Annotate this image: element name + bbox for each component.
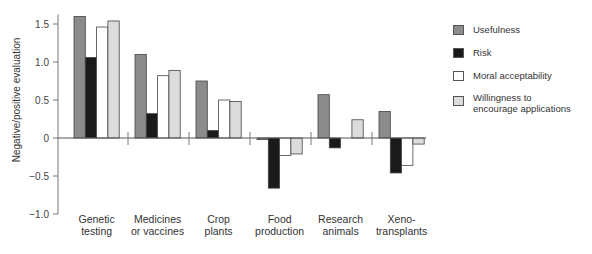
bar-moral	[219, 100, 230, 138]
bar-usefulness	[196, 81, 207, 138]
y-tick-label: 0.5	[35, 95, 49, 106]
bar-moral	[280, 138, 291, 155]
y-axis: 1.51.00.50−0.5−1.0	[29, 14, 58, 219]
y-tick-label: 1.0	[35, 57, 49, 68]
y-tick-label: 1.5	[35, 19, 49, 30]
bar-risk	[146, 114, 157, 138]
usefulness-swatch	[453, 25, 464, 35]
bar-willingness	[169, 70, 180, 138]
category-label: transplants	[376, 225, 427, 237]
bar-willingness	[352, 120, 363, 138]
bar-willingness	[413, 138, 424, 144]
moral-acceptability-swatch	[453, 71, 464, 81]
bar-usefulness	[74, 16, 85, 138]
category-label: production	[255, 225, 304, 237]
y-axis-label: Negative/positive evaluation	[11, 38, 22, 163]
legend-label: Risk	[473, 47, 491, 58]
category-label: Crop	[207, 213, 230, 225]
bar-usefulness	[318, 95, 329, 138]
bar-risk	[85, 57, 96, 138]
bar-usefulness	[379, 111, 390, 138]
y-tick-label: −0.5	[29, 171, 49, 182]
bar-chart: 1.51.00.50−0.5−1.0 GenetictestingMedicin…	[0, 0, 592, 254]
bar-willingness	[108, 21, 119, 138]
category-label: Xeno-	[388, 213, 417, 225]
category-label: Medicines	[134, 213, 181, 225]
legend-item-willingness: Willingness to encourage applications	[453, 92, 571, 114]
category-label: Food	[268, 213, 292, 225]
bar-risk	[268, 138, 279, 188]
bar-willingness	[291, 138, 302, 154]
legend-label: Willingness to encourage applications	[473, 92, 571, 114]
y-tick-label: −1.0	[29, 209, 49, 220]
bar-usefulness	[135, 54, 146, 138]
category-label: or vaccines	[131, 225, 184, 237]
bar-risk	[329, 138, 340, 148]
legend-item-risk: Risk	[453, 47, 491, 58]
bar-moral	[402, 138, 413, 165]
category-label: animals	[323, 225, 359, 237]
category-label: testing	[81, 225, 112, 237]
bar-moral	[158, 76, 169, 138]
bar-willingness	[230, 102, 241, 138]
x-axis: GenetictestingMedicinesor vaccinesCroppl…	[58, 132, 427, 237]
willingness-swatch	[453, 96, 464, 106]
bar-risk	[207, 130, 218, 138]
legend-label: Moral acceptability	[473, 70, 552, 81]
category-label: Genetic	[79, 213, 115, 225]
bar-moral	[97, 27, 108, 138]
y-tick-label: 0	[43, 133, 49, 144]
category-label: plants	[205, 225, 233, 237]
category-label: Research	[318, 213, 363, 225]
bar-risk	[390, 138, 401, 173]
legend-item-usefulness: Usefulness	[453, 24, 520, 35]
legend-item-moral-acceptability: Moral acceptability	[453, 70, 552, 81]
legend-label: Usefulness	[473, 24, 520, 35]
risk-swatch	[453, 48, 464, 58]
bars	[74, 16, 424, 188]
